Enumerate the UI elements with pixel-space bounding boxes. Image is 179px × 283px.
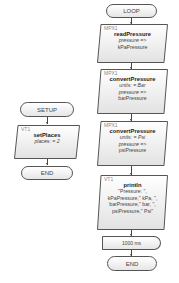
setup-start-label: SETUP bbox=[37, 107, 57, 113]
param-line: psiPressure bbox=[97, 147, 168, 153]
loop-block-readpressure[interactable]: MPX1 readPressure pressure => kPaPressur… bbox=[97, 24, 168, 63]
loop-end-label: END bbox=[126, 261, 139, 267]
setup-end-terminator[interactable]: END bbox=[21, 166, 73, 180]
loop-block-convertpressure-psi[interactable]: MPX1 convertPressure units: = Psi pressu… bbox=[97, 121, 168, 166]
setup-start-terminator[interactable]: SETUP bbox=[20, 102, 74, 117]
loop-delay-block[interactable]: 1000 ms bbox=[102, 236, 161, 250]
arrow-down-icon bbox=[46, 122, 48, 124]
param-line: places: = 2 bbox=[14, 138, 80, 144]
param-line: kPaPressure bbox=[97, 44, 168, 50]
loop-start-label: LOOP bbox=[123, 8, 140, 14]
arrow-down-icon bbox=[46, 163, 48, 165]
delay-label: 1000 ms bbox=[122, 240, 141, 246]
loop-block-convertpressure-bar[interactable]: MPX1 convertPressure units: = Bar pressu… bbox=[97, 69, 168, 114]
loop-block-println[interactable]: VT1 println "Pressure: ", kPaPressure," … bbox=[97, 175, 168, 230]
param-line: barPressure bbox=[97, 95, 168, 101]
setup-block-setplaces[interactable]: VT1 setPlaces places: = 2 bbox=[14, 125, 80, 159]
param-line: psiPressure," Psi" bbox=[97, 208, 168, 214]
setup-end-label: END bbox=[41, 170, 54, 176]
loop-end-terminator[interactable]: END bbox=[107, 256, 157, 271]
loop-start-terminator[interactable]: LOOP bbox=[106, 4, 157, 18]
